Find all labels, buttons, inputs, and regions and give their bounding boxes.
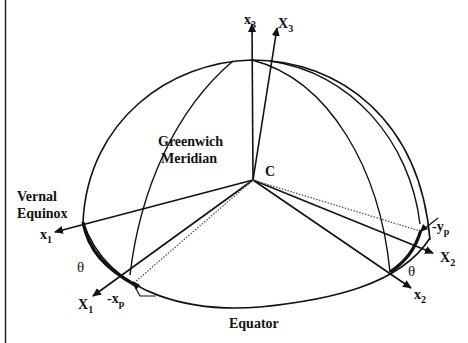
theta-arc-left — [83, 222, 135, 285]
label-x2: x2 — [414, 287, 426, 305]
greenwich-label-line2: Meridian — [161, 151, 217, 166]
sphere-diagram: x3 X3 Greenwich Meridian C Vernal Equino… — [0, 0, 468, 343]
diagram-canvas: x3 X3 Greenwich Meridian C Vernal Equino… — [0, 0, 468, 343]
theta-right-label: θ — [408, 263, 415, 279]
label-neg-yp: -yp — [432, 219, 450, 237]
axis-X1 — [93, 180, 253, 296]
greenwich-label-line1: Greenwich — [158, 134, 223, 149]
vernal-label-line1: Vernal — [17, 189, 57, 204]
equator-label: Equator — [229, 316, 279, 331]
label-x3: x3 — [244, 12, 256, 30]
dotted-line-yp — [253, 180, 420, 231]
label-X1: X1 — [78, 297, 93, 315]
center-label-C: C — [265, 164, 275, 179]
label-X3: X3 — [278, 16, 293, 34]
label-x1: x1 — [40, 227, 52, 245]
greenwich-meridian-curve — [130, 61, 233, 275]
hemisphere-outline — [83, 60, 430, 240]
vernal-label-line2: Equinox — [17, 206, 68, 221]
theta-arc-right — [390, 230, 421, 272]
label-neg-xp: -xp — [107, 291, 125, 309]
label-X2: X2 — [440, 250, 455, 268]
axis-X3 — [253, 28, 277, 180]
theta-left-label: θ — [77, 259, 84, 275]
axis-x3 — [252, 24, 253, 180]
yp-arrowhead — [420, 224, 428, 232]
